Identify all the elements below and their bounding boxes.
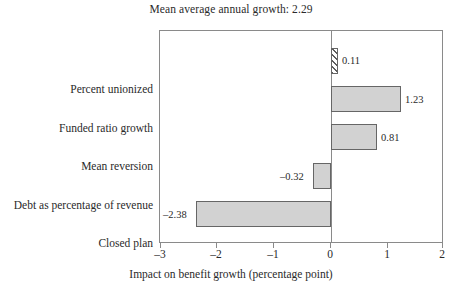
- bar-chart-figure: Mean average annual growth: 2.29 Percent…: [0, 0, 462, 293]
- bar-closed-plan[interactable]: [196, 201, 331, 227]
- value-label-mean-reversion: 0.81: [381, 133, 399, 144]
- x-tick-label--2: –2: [210, 249, 222, 261]
- y-axis-category-labels: Percent unionized Funded ratio growth Me…: [0, 30, 153, 243]
- x-tick-label--3: –3: [154, 249, 166, 261]
- value-label-funded-ratio-growth: 1.23: [405, 95, 423, 106]
- bar-debt-as-percentage-of-revenue[interactable]: [313, 163, 331, 189]
- x-tick-label-0: 0: [327, 249, 333, 261]
- y-label-percent-unionized: Percent unionized: [70, 84, 153, 96]
- bar-mean-reversion[interactable]: [331, 124, 377, 150]
- bar-percent-unionized[interactable]: [331, 48, 338, 74]
- y-label-closed-plan: Closed plan: [98, 238, 153, 250]
- x-tick-label-2: 2: [439, 249, 445, 261]
- x-tick-label--1: –1: [267, 249, 279, 261]
- bar-funded-ratio-growth[interactable]: [331, 86, 401, 112]
- y-label-debt-as-percentage-of-revenue: Debt as percentage of revenue: [14, 200, 153, 212]
- plot-area: 0.11 1.23 0.81 –0.32 –2.38: [159, 30, 443, 243]
- y-label-funded-ratio-growth: Funded ratio growth: [59, 123, 153, 135]
- chart-title: Mean average annual growth: 2.29: [0, 3, 462, 15]
- value-label-closed-plan: –2.38: [163, 210, 187, 221]
- x-axis-ticks: –3 –2 –1 0 1 2: [159, 243, 443, 265]
- y-label-mean-reversion: Mean reversion: [81, 161, 153, 173]
- value-label-debt-as-percentage-of-revenue: –0.32: [280, 172, 304, 183]
- x-axis-title: Impact on benefit growth (percentage poi…: [0, 268, 462, 280]
- value-label-percent-unionized: 0.11: [342, 56, 360, 67]
- x-tick-label-1: 1: [384, 249, 390, 261]
